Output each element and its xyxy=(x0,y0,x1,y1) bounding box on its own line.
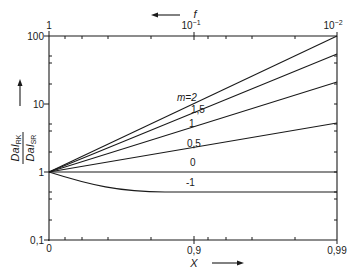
label-m2: m=2 xyxy=(177,92,197,103)
label-m1: 1 xyxy=(189,118,195,129)
y-axis-label: DaIRK DaISR xyxy=(9,132,37,164)
y-ticks-left xyxy=(44,36,52,240)
y-tick-10: 10 xyxy=(33,99,45,110)
y-arrow-icon xyxy=(18,79,23,106)
top-tick-10-1: 10−1 xyxy=(181,19,200,31)
label-m-neg1: -1 xyxy=(186,177,195,188)
x-tick-0-9: 0,9 xyxy=(187,245,201,256)
top-tick-1: 1 xyxy=(46,20,52,31)
x-tick-0-99: 0,99 xyxy=(327,245,347,256)
label-m1-5: 1,5 xyxy=(191,104,205,115)
x-top-tick-labels: 1 10−1 10−2 xyxy=(46,19,342,31)
x-arrow-icon xyxy=(212,261,244,266)
y-tick-0-1: 0,1 xyxy=(30,235,44,246)
x-tick-0: 0 xyxy=(46,243,52,254)
x-bottom-tick-labels: 0 0,9 0,99 xyxy=(46,243,347,256)
top-tick-10-2: 10−2 xyxy=(323,19,342,31)
svg-text:DaISR: DaISR xyxy=(24,135,37,162)
f-arrow-icon xyxy=(151,13,180,18)
x-axis-label: X xyxy=(189,257,198,269)
curve-labels: m=2 1,5 1 0,5 0 -1 xyxy=(177,92,205,188)
svg-text:DaIRK: DaIRK xyxy=(9,134,22,161)
label-m0: 0 xyxy=(190,157,196,168)
label-m0-5: 0,5 xyxy=(187,138,201,149)
y-tick-100: 100 xyxy=(27,31,44,42)
chart-area: m=2 1,5 1 0,5 0 -1 100 10 1 0,1 0 0,9 0,… xyxy=(0,0,355,273)
chart-svg: m=2 1,5 1 0,5 0 -1 100 10 1 0,1 0 0,9 0,… xyxy=(0,0,355,273)
y-tick-1: 1 xyxy=(38,167,44,178)
